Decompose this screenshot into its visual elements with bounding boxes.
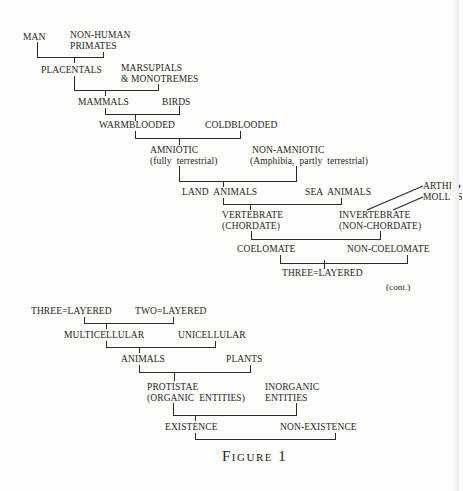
- node-unicellular: UNICELLULAR: [178, 330, 246, 341]
- connector: [106, 347, 216, 348]
- node-protistae-line1: PROTISTAE: [147, 382, 198, 393]
- node-animals: ANIMALS: [121, 354, 165, 365]
- node-vertebrate-line1: VERTEBRATE: [222, 210, 283, 221]
- node-two-layered: TWO=LAYERED: [135, 306, 207, 317]
- node-inorganic-line1: INORGANIC: [265, 382, 319, 393]
- node-plants: PLANTS: [226, 354, 263, 365]
- connector: [84, 323, 174, 324]
- figure-caption: Figure 1: [222, 448, 287, 465]
- node-existence: EXISTENCE: [165, 422, 218, 433]
- node-non-coelomate: NON-COELOMATE: [347, 244, 430, 255]
- connector: [106, 323, 107, 329]
- continuation-note: (cont.): [386, 282, 410, 293]
- node-three-layered-2: THREE=LAYERED: [31, 306, 112, 317]
- connector: [195, 415, 196, 421]
- node-three-layered: THREE=LAYERED: [282, 268, 363, 279]
- page-edge-shadow: [451, 0, 459, 491]
- node-invertebrate-line1: INVERTEBRATE: [339, 210, 410, 221]
- connector: [195, 439, 336, 440]
- node-non-existence: NON-EXISTENCE: [280, 422, 357, 433]
- connector: [280, 263, 408, 264]
- connector: [251, 239, 381, 240]
- connector: [139, 347, 140, 353]
- node-multicellular: MULTICELLULAR: [64, 330, 144, 341]
- connector: [139, 372, 251, 373]
- node-coelomate: COELOMATE: [237, 244, 295, 255]
- connector: [174, 372, 175, 381]
- node-inorganic-line2: ENTITIES: [265, 393, 307, 404]
- node-protistae-line2: (ORGANIC ENTITIES): [147, 393, 245, 404]
- connector: [173, 415, 297, 416]
